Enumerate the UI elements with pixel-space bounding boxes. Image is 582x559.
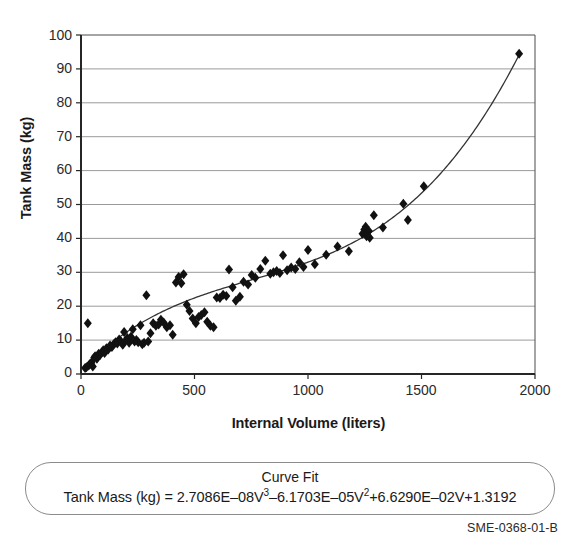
data-point: [146, 328, 154, 338]
data-point: [279, 250, 287, 260]
data-point-group: [81, 49, 523, 373]
data-point: [304, 245, 312, 255]
data-point: [379, 223, 387, 233]
fit-curve-line: [81, 55, 519, 370]
data-point: [84, 318, 92, 328]
data-point: [169, 330, 177, 340]
chart-plot-area: Tank Mass (kg) 100 90 80 70 60 50 40 30 …: [0, 0, 582, 405]
document-id-label: SME-0368-01-B: [467, 521, 558, 535]
data-point: [334, 242, 342, 252]
data-point: [322, 250, 330, 260]
equation-lhs: Tank Mass (kg) = 2.7086E–08V: [64, 489, 264, 505]
caption-equation: Tank Mass (kg) = 2.7086E–08V3–6.1703E–05…: [26, 489, 554, 505]
data-point: [404, 215, 412, 225]
figure-root: Tank Mass (kg) 100 90 80 70 60 50 40 30 …: [0, 0, 582, 559]
x-axis-title: Internal Volume (liters): [81, 415, 536, 431]
equation-mid: –6.1703E–05V: [269, 489, 364, 505]
data-point: [370, 210, 378, 220]
caption-title: Curve Fit: [26, 469, 554, 485]
data-point: [515, 49, 523, 59]
data-point: [420, 181, 428, 191]
equation-tail: +6.6290E–02V+1.3192: [369, 489, 516, 505]
data-point: [345, 246, 353, 256]
curve-fit-caption-box: Curve Fit Tank Mass (kg) = 2.7086E–08V3–…: [25, 462, 555, 515]
data-point: [142, 290, 150, 300]
axis-ticks: [76, 35, 535, 379]
data-point: [225, 265, 233, 275]
data-point: [229, 282, 237, 292]
scatter-plot-svg: [0, 0, 582, 405]
data-point: [261, 256, 269, 266]
